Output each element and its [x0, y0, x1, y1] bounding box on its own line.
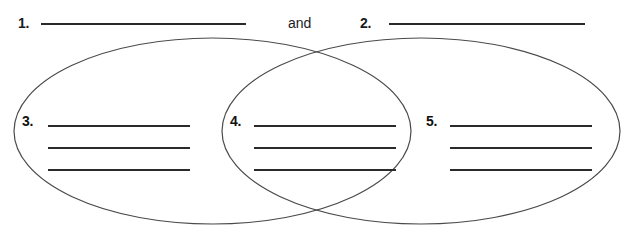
venn-diagram-outline — [0, 0, 632, 243]
worksheet-page: 1. and 2. 3. 4. 5. — [0, 0, 632, 243]
center-region-line-3[interactable] — [254, 169, 396, 171]
right-region-line-2[interactable] — [450, 147, 592, 149]
region-number-5: 5. — [426, 114, 437, 128]
region-number-3: 3. — [22, 114, 33, 128]
venn-ellipse-left[interactable] — [14, 38, 411, 224]
center-region-line-1[interactable] — [254, 125, 396, 127]
left-region-line-3[interactable] — [48, 169, 190, 171]
left-region-line-2[interactable] — [48, 147, 190, 149]
left-region-line-1[interactable] — [48, 125, 190, 127]
center-region-line-2[interactable] — [254, 147, 396, 149]
right-region-line-3[interactable] — [450, 169, 592, 171]
venn-ellipse-right[interactable] — [222, 38, 620, 224]
right-region-line-1[interactable] — [450, 125, 592, 127]
region-number-4: 4. — [230, 114, 241, 128]
